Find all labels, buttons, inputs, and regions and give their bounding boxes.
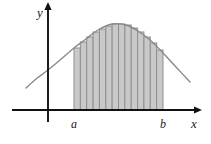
riemann-rectangle (131, 28, 137, 110)
figure-canvas: y x a b (0, 0, 211, 144)
riemann-rectangle (99, 29, 105, 110)
interval-label-b: b (160, 117, 166, 131)
x-axis-arrowhead (194, 106, 202, 113)
riemann-rectangle (119, 24, 125, 110)
riemann-rectangle (125, 25, 131, 110)
riemann-rectangles (74, 24, 163, 110)
riemann-rectangle (144, 37, 150, 110)
riemann-rectangle (87, 37, 93, 110)
riemann-rectangle (112, 24, 118, 110)
y-axis-arrowhead (44, 2, 51, 10)
riemann-rectangle (93, 32, 99, 110)
riemann-rectangle (80, 42, 86, 110)
y-axis-label: y (35, 5, 43, 20)
x-axis-label: x (190, 116, 197, 131)
interval-label-a: a (71, 117, 77, 131)
riemann-rectangle (106, 26, 112, 110)
riemann-rectangle (157, 50, 163, 110)
riemann-rectangle (138, 32, 144, 110)
riemann-rectangle (150, 43, 156, 110)
riemann-rectangle (74, 48, 80, 110)
riemann-sum-figure: y x a b (0, 0, 211, 144)
